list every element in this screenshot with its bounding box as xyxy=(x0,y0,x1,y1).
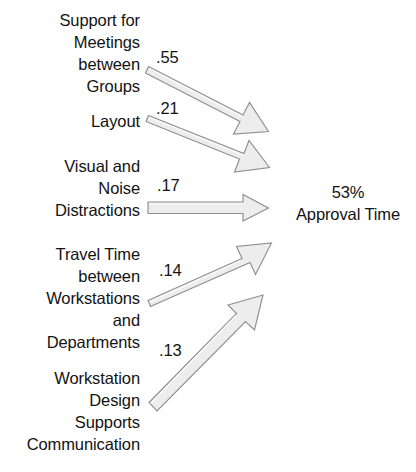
coefficient-label-visual-and-noise-distractions: .17 xyxy=(157,175,180,195)
arrow-layout xyxy=(146,116,270,173)
coefficient-label-support-for-meetings-between-groups: .55 xyxy=(156,47,179,67)
predictor-label-layout: Layout xyxy=(91,110,140,132)
predictor-label-workstation-design-supports-communication: Workstation Design Supports Communicatio… xyxy=(27,367,140,455)
path-diagram: Support for Meetings between Groups Layo… xyxy=(0,0,416,472)
coefficient-label-layout: .21 xyxy=(156,98,179,118)
outcome-node-approval-time: 53% Approval Time xyxy=(286,181,410,225)
predictor-label-support-for-meetings-between-groups: Support for Meetings between Groups xyxy=(59,9,140,97)
predictor-label-travel-time-between-workstations-and-departments: Travel Time between Workstations and Dep… xyxy=(46,243,140,353)
coefficient-label-travel-time-between-workstations-and-departments: .14 xyxy=(159,260,182,280)
arrow-visual-and-noise-distractions xyxy=(148,195,269,222)
coefficient-label-workstation-design-supports-communication: .13 xyxy=(159,340,182,360)
predictor-label-visual-and-noise-distractions: Visual and Noise Distractions xyxy=(55,155,140,221)
